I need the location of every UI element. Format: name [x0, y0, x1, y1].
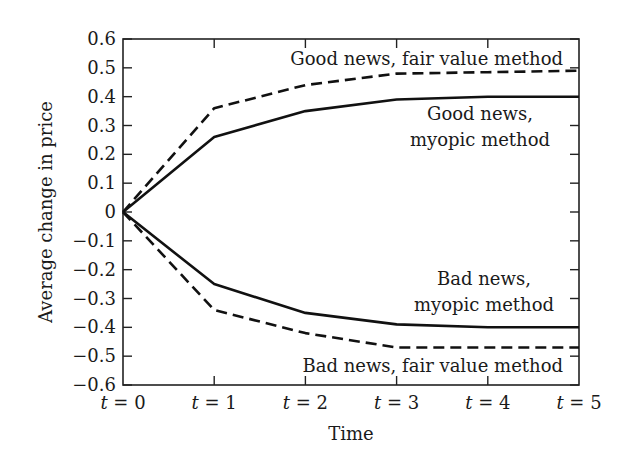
x-tick-label: t = 4 — [465, 392, 510, 413]
y-tick-label: −0.2 — [72, 259, 116, 280]
y-tick-label: 0.3 — [87, 115, 116, 136]
y-tick-label: −0.1 — [72, 230, 116, 251]
label-good-myopic-line1: Good news, — [427, 103, 533, 124]
y-tick-label: 0.1 — [87, 172, 116, 193]
label-good-myopic-line2: myopic method — [410, 129, 550, 150]
y-tick-label: 0.2 — [87, 143, 116, 164]
y-tick-label: −0.3 — [72, 288, 116, 309]
x-tick-label: t = 2 — [283, 392, 328, 413]
y-tick-label: −0.4 — [72, 316, 116, 337]
x-tick-label: t = 5 — [556, 392, 601, 413]
label-bad-fair-value: Bad news, fair value method — [302, 355, 563, 376]
plot-frame — [123, 39, 579, 385]
y-tick-label: 0.5 — [87, 57, 116, 78]
x-tick-label: t = 1 — [192, 392, 237, 413]
label-good-fair-value: Good news, fair value method — [290, 48, 563, 69]
y-tick-label: 0.6 — [87, 28, 116, 49]
label-bad-myopic-line2: myopic method — [414, 294, 554, 315]
y-tick-label: 0 — [105, 201, 116, 222]
label-bad-myopic-line1: Bad news, — [437, 268, 531, 289]
y-tick-label: −0.5 — [72, 345, 116, 366]
y-tick-label: 0.4 — [87, 86, 116, 107]
line-chart: 0.60.50.40.30.20.10−0.1−0.2−0.3−0.4−0.5−… — [0, 0, 626, 472]
x-tick-label: t = 0 — [100, 392, 145, 413]
y-axis: 0.60.50.40.30.20.10−0.1−0.2−0.3−0.4−0.5−… — [72, 28, 579, 395]
x-axis-title: Time — [328, 423, 373, 444]
y-axis-title: Average change in price — [35, 101, 56, 324]
x-tick-label: t = 3 — [374, 392, 419, 413]
